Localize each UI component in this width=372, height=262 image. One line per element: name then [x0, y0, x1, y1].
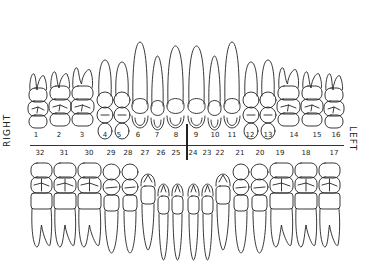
lower-tooth-number: 27 [141, 149, 150, 157]
upper-tooth [208, 56, 221, 130]
lower-tooth-number: 26 [157, 149, 166, 157]
upper-tooth-number: 16 [332, 131, 341, 139]
upper-tooth-number: 1 [34, 131, 38, 139]
upper-tooth [28, 74, 48, 128]
upper-tooth [243, 62, 259, 139]
upper-tooth-number: 2 [57, 131, 61, 139]
upper-tooth-number: 6 [136, 131, 140, 139]
upper-tooth-number: 5 [117, 131, 121, 139]
upper-tooth [224, 42, 240, 128]
upper-tooth-number: 12 [246, 131, 255, 139]
lower-tooth [172, 184, 183, 260]
upper-tooth [49, 72, 71, 126]
lower-tooth-number: 21 [236, 149, 245, 157]
upper-tooth [132, 42, 148, 128]
lower-tooth-number: 25 [172, 149, 181, 157]
upper-tooth-number: 15 [313, 131, 322, 139]
lower-tooth [319, 163, 340, 247]
lower-tooth [31, 163, 52, 247]
upper-tooth-number: 10 [211, 131, 220, 139]
upper-tooth [277, 68, 300, 126]
upper-tooth [97, 60, 113, 139]
lower-tooth-number: 31 [60, 149, 69, 157]
upper-tooth [167, 46, 184, 128]
upper-tooth-number: 11 [228, 131, 237, 139]
right-side-label: RIGHT [2, 114, 12, 147]
lower-tooth-number: 22 [216, 149, 225, 157]
lower-tooth-number: 20 [256, 149, 265, 157]
lower-tooth [141, 174, 155, 250]
upper-tooth [114, 62, 130, 139]
upper-tooth [260, 60, 276, 139]
lower-tooth-number: 17 [330, 149, 339, 157]
upper-tooth-number: 4 [103, 131, 107, 139]
lower-tooth-number: 19 [276, 149, 285, 157]
upper-tooth-number: 8 [174, 131, 178, 139]
lower-tooth [54, 163, 76, 247]
lower-tooth [188, 184, 199, 260]
lower-tooth [270, 163, 293, 247]
lower-tooth-number: 29 [107, 149, 116, 157]
lower-tooth [103, 164, 120, 253]
lower-tooth [78, 163, 101, 247]
tooth-chart: 12345678910111213141516 3231302928272625… [0, 0, 372, 262]
upper-tooth-number: 13 [264, 131, 273, 139]
lower-tooth-number: 32 [36, 149, 45, 157]
upper-tooth-number: 14 [290, 131, 299, 139]
lower-tooth [295, 163, 317, 247]
lower-tooth [233, 164, 249, 253]
upper-tooth-number: 7 [155, 131, 159, 139]
upper-tooth [151, 56, 164, 130]
upper-tooth-number: 9 [194, 131, 198, 139]
lower-tooth [251, 164, 268, 253]
lower-tooth-number: 24 [189, 149, 198, 157]
lower-tooth [122, 164, 138, 253]
upper-tooth-number: 3 [80, 131, 84, 139]
upper-tooth [188, 46, 205, 128]
lower-tooth [158, 184, 169, 260]
lower-tooth-number: 30 [85, 149, 94, 157]
lower-tooth [202, 184, 213, 260]
upper-tooth [71, 68, 94, 126]
lower-tooth-number: 18 [302, 149, 311, 157]
left-side-label: LEFT [348, 126, 358, 151]
lower-tooth-number: 28 [124, 149, 133, 157]
lower-tooth [216, 174, 230, 250]
lower-tooth-number: 23 [203, 149, 212, 157]
upper-tooth [324, 74, 344, 128]
upper-tooth [301, 72, 323, 126]
